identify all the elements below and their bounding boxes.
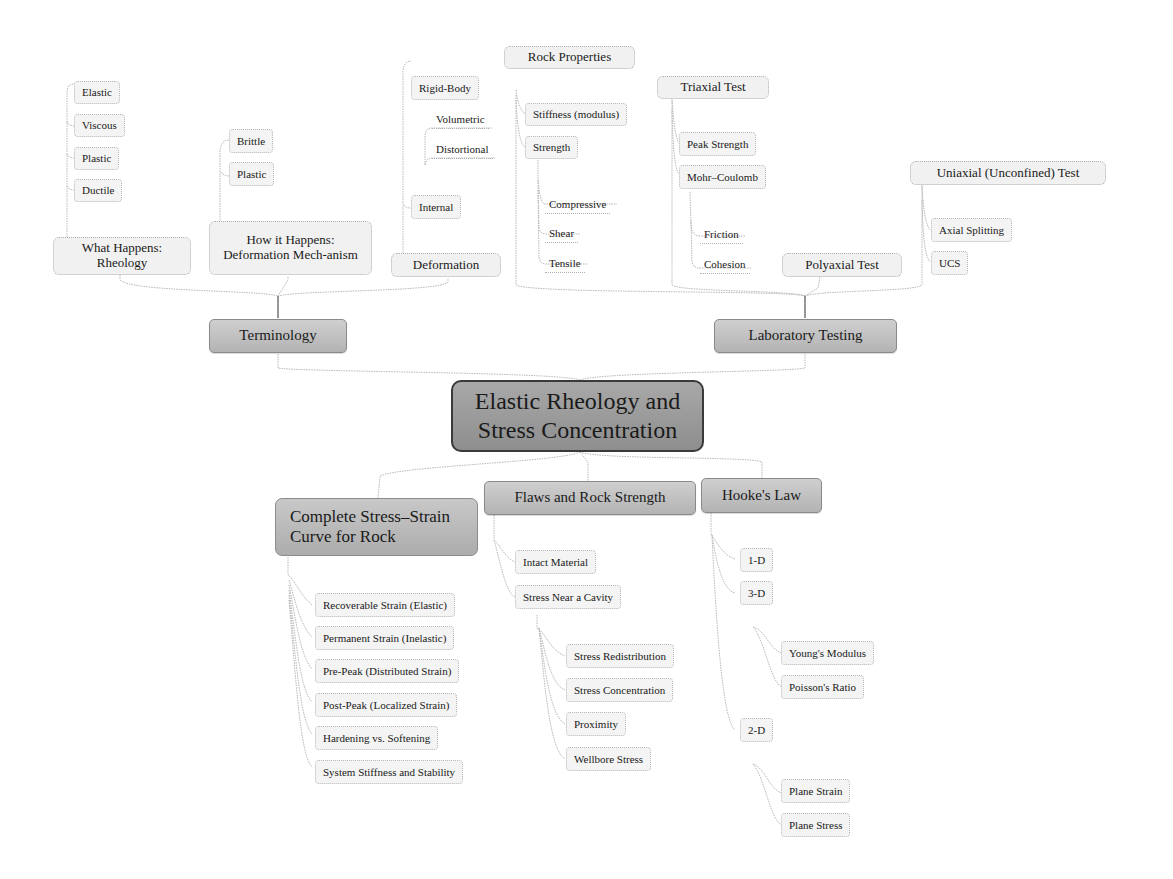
leaf-pre-peak[interactable]: Pre-Peak (Distributed Strain) [315,659,459,683]
leaf-youngs-modulus[interactable]: Young's Modulus [781,641,874,665]
leaf-tensile[interactable]: Tensile [545,257,585,273]
mind-map-canvas: Elastic Rheology and Stress Concentratio… [0,0,1173,879]
leaf-plane-stress[interactable]: Plane Stress [781,813,850,837]
leaf-proximity[interactable]: Proximity [566,712,626,736]
complete-curve-node[interactable]: Complete Stress–Strain Curve for Rock [275,498,478,556]
terminology-node[interactable]: Terminology [209,319,347,353]
leaf-cohesion[interactable]: Cohesion [700,258,750,274]
deformation-node[interactable]: Deformation [391,253,501,277]
how-it-happens-label: How it Happens: Deformation Mech-anism [218,233,363,263]
what-happens-node[interactable]: What Happens: Rheology [53,237,191,275]
leaf-wellbore-stress[interactable]: Wellbore Stress [566,747,651,771]
leaf-ucs[interactable]: UCS [931,251,968,275]
leaf-2d[interactable]: 2-D [740,718,773,742]
leaf-stiffness[interactable]: Stiffness (modulus) [525,103,627,126]
leaf-peak-strength[interactable]: Peak Strength [679,132,756,156]
leaf-hardening-softening[interactable]: Hardening vs. Softening [315,726,438,750]
flaws-node[interactable]: Flaws and Rock Strength [484,481,696,515]
leaf-poissons-ratio[interactable]: Poisson's Ratio [781,675,864,699]
leaf-system-stiffness[interactable]: System Stiffness and Stability [315,760,463,784]
leaf-brittle[interactable]: Brittle [229,129,273,153]
leaf-internal[interactable]: Internal [411,195,461,219]
leaf-1d[interactable]: 1-D [740,548,773,572]
deformation-label: Deformation [413,258,479,273]
laboratory-testing-label: Laboratory Testing [748,327,862,344]
leaf-shear[interactable]: Shear [545,227,578,243]
leaf-intact-material[interactable]: Intact Material [515,550,596,574]
root-label: Elastic Rheology and Stress Concentratio… [453,387,702,445]
leaf-volumetric[interactable]: Volumetric [432,113,489,129]
leaf-stress-near-cavity[interactable]: Stress Near a Cavity [515,585,621,609]
leaf-ductile[interactable]: Ductile [74,179,122,202]
leaf-friction[interactable]: Friction [700,228,743,244]
leaf-stress-concentration[interactable]: Stress Concentration [566,678,673,702]
triaxial-test-node[interactable]: Triaxial Test [657,76,769,99]
uniaxial-test-node[interactable]: Uniaxial (Unconfined) Test [910,161,1106,185]
leaf-plastic-mechanism[interactable]: Plastic [229,162,274,186]
terminology-label: Terminology [239,327,316,344]
leaf-stress-redistribution[interactable]: Stress Redistribution [566,644,674,668]
laboratory-testing-node[interactable]: Laboratory Testing [714,319,897,353]
leaf-rigid-body[interactable]: Rigid-Body [411,76,479,100]
leaf-mohr-coulomb[interactable]: Mohr–Coulomb [679,165,766,189]
polyaxial-test-node[interactable]: Polyaxial Test [782,253,902,277]
leaf-plane-strain[interactable]: Plane Strain [781,779,850,803]
what-happens-label: What Happens: Rheology [62,241,182,271]
root-node[interactable]: Elastic Rheology and Stress Concentratio… [451,380,704,452]
leaf-3d[interactable]: 3-D [740,581,773,605]
how-it-happens-node[interactable]: How it Happens: Deformation Mech-anism [209,221,372,275]
leaf-permanent-strain[interactable]: Permanent Strain (Inelastic) [315,626,454,650]
leaf-strength[interactable]: Strength [525,136,578,159]
leaf-post-peak[interactable]: Post-Peak (Localized Strain) [315,693,457,717]
leaf-axial-splitting[interactable]: Axial Splitting [931,218,1012,242]
leaf-viscous[interactable]: Viscous [74,114,125,137]
leaf-recoverable-strain[interactable]: Recoverable Strain (Elastic) [315,593,455,617]
hookes-law-node[interactable]: Hooke's Law [701,478,822,513]
rock-properties-node[interactable]: Rock Properties [504,46,635,69]
leaf-elastic[interactable]: Elastic [74,81,120,104]
leaf-distortional[interactable]: Distortional [432,143,493,159]
leaf-compressive[interactable]: Compressive [545,198,610,214]
leaf-plastic-rheology[interactable]: Plastic [74,147,119,170]
